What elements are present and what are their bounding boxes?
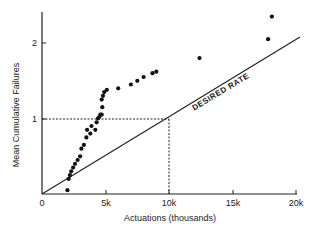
data-point — [69, 169, 73, 173]
data-point — [100, 113, 104, 117]
desired-rate-label: DESIRED RATE — [191, 71, 251, 112]
data-point — [142, 75, 146, 79]
data-point — [105, 88, 109, 92]
data-point — [101, 94, 105, 98]
data-point — [73, 162, 77, 166]
data-point — [93, 128, 97, 132]
data-point — [85, 128, 89, 132]
data-point — [76, 158, 80, 162]
data-point — [129, 82, 133, 86]
data-point — [78, 154, 82, 158]
data-point — [135, 79, 139, 83]
data-point — [270, 15, 274, 19]
data-point — [65, 188, 69, 192]
data-points — [65, 15, 274, 193]
data-point — [82, 143, 86, 147]
x-tick-10k: 10k — [162, 198, 177, 208]
x-tick-0: 0 — [39, 198, 44, 208]
data-point — [154, 70, 158, 74]
x-tick-20k: 20k — [289, 198, 304, 208]
data-point — [266, 37, 270, 41]
data-point — [88, 132, 92, 136]
x-tick-5k: 5k — [101, 198, 111, 208]
data-point — [67, 177, 71, 181]
data-point — [71, 166, 75, 170]
y-tick-1: 1 — [32, 114, 37, 124]
data-point — [79, 147, 83, 151]
data-point — [100, 98, 104, 102]
x-tick-15k: 15k — [226, 198, 241, 208]
data-point — [116, 86, 120, 90]
data-point — [68, 173, 72, 177]
data-point — [84, 135, 88, 139]
y-tick-2: 2 — [32, 38, 37, 48]
chart: 0 5k 10k 15k 20k 1 2 Actuations (thousan… — [0, 0, 314, 226]
desired-rate-line — [42, 37, 300, 194]
data-point — [95, 120, 99, 124]
data-point — [197, 56, 201, 60]
x-axis-label: Actuations (thousands) — [124, 213, 216, 223]
y-axis-label: Mean Cumulative Failures — [11, 62, 21, 167]
data-point — [89, 124, 93, 128]
data-point — [150, 71, 154, 75]
data-point — [100, 105, 104, 109]
